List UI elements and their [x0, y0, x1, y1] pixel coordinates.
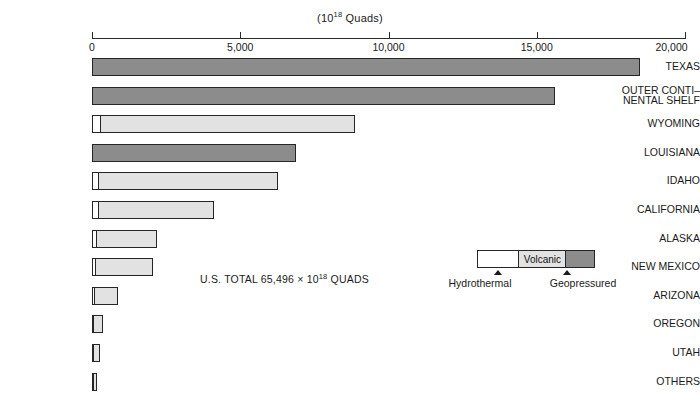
- us-total-prefix: U.S. TOTAL 65,496 × 10: [200, 273, 319, 285]
- bar-row: OUTER CONTI– NENTAL SHELF: [0, 87, 700, 105]
- bar-row-label: OREGON: [612, 318, 700, 329]
- us-total-annotation: U.S. TOTAL 65,496 × 1018 QUADS: [200, 273, 369, 285]
- bar-segment-volcanic: [94, 316, 102, 332]
- bar: [92, 201, 214, 219]
- legend-label-geopressured: Geopressured: [550, 277, 617, 289]
- bar-segment-volcanic: [95, 288, 117, 304]
- bar: [92, 58, 640, 76]
- bar-row: TEXAS: [0, 58, 700, 76]
- bar-row: WYOMING: [0, 115, 700, 133]
- bar-row: CALIFORNIA: [0, 201, 700, 219]
- bar-row-label: NEW MEXICO: [612, 261, 700, 272]
- bar: [92, 373, 97, 391]
- bar-segment-volcanic: [94, 374, 96, 390]
- bar-row: UTAH: [0, 344, 700, 362]
- x-axis-tick: [685, 32, 686, 39]
- legend-bar: Volcanic: [477, 250, 595, 268]
- bar-segment-volcanic: [99, 202, 213, 218]
- bar-row: OREGON: [0, 315, 700, 333]
- bar-row: IDAHO: [0, 172, 700, 190]
- bar-segment-geopressured: [93, 145, 295, 161]
- bar-row-label: IDAHO: [612, 175, 700, 186]
- bar: [92, 87, 555, 105]
- x-axis-tick-label: 15,000: [521, 41, 553, 53]
- bar: [92, 344, 100, 362]
- x-axis-tick-label: 0: [89, 41, 95, 53]
- legend-segment-volcanic: Volcanic: [519, 251, 566, 267]
- x-axis-tick: [389, 32, 390, 39]
- bar-row: OTHERS: [0, 373, 700, 391]
- bar-segment-geopressured: [93, 59, 639, 75]
- axis-title-suffix: Quads): [342, 12, 383, 24]
- bar-row-label: ARIZONA: [612, 290, 700, 301]
- bar-row-label: LOUISIANA: [612, 147, 700, 158]
- bar: [92, 115, 355, 133]
- bar-row-label: OTHERS: [612, 376, 700, 387]
- bar-row: LOUISIANA: [0, 144, 700, 162]
- bar-row-label: UTAH: [612, 347, 700, 358]
- bar: [92, 144, 296, 162]
- bar: [92, 258, 153, 276]
- geopressured-pointer-icon: [563, 270, 571, 275]
- hydrothermal-pointer-icon: [494, 270, 502, 275]
- axis-title: (1018 Quads): [0, 12, 700, 24]
- bar-row: ALASKA: [0, 230, 700, 248]
- bar: [92, 172, 278, 190]
- bar-segment-geopressured: [93, 88, 554, 104]
- legend-segment-hydrothermal: [478, 251, 519, 267]
- bar-segment-volcanic: [99, 173, 277, 189]
- bar-row: ARIZONA: [0, 287, 700, 305]
- us-total-suffix: QUADS: [327, 273, 368, 285]
- x-axis-tick-label: 10,000: [372, 41, 404, 53]
- bar-row-label: ALASKA: [612, 233, 700, 244]
- chart-figure: (1018 Quads) 05,00010,00015,00020,000 TE…: [0, 0, 700, 406]
- x-axis-tick-label: 5,000: [227, 41, 253, 53]
- bar-segment-volcanic: [94, 345, 98, 361]
- bar: [92, 287, 118, 305]
- x-axis-tick-label: 20,000: [655, 41, 687, 53]
- x-axis-tick: [240, 32, 241, 39]
- bar-segment-hydrothermal: [93, 116, 101, 132]
- axis-title-prefix: (10: [317, 12, 334, 24]
- x-axis-tick: [92, 32, 93, 39]
- x-axis-tick: [537, 32, 538, 39]
- bar-segment-volcanic: [97, 231, 156, 247]
- bar-segment-volcanic: [101, 116, 354, 132]
- legend-label-hydrothermal: Hydrothermal: [448, 277, 511, 289]
- bar-segment-volcanic: [96, 259, 152, 275]
- bar: [92, 230, 157, 248]
- bar-row-label: CALIFORNIA: [612, 204, 700, 215]
- bar-row-label: OUTER CONTI– NENTAL SHELF: [612, 85, 700, 106]
- bar-row-label: WYOMING: [612, 118, 700, 129]
- bar: [92, 315, 103, 333]
- legend-segment-geopressured: [566, 251, 594, 267]
